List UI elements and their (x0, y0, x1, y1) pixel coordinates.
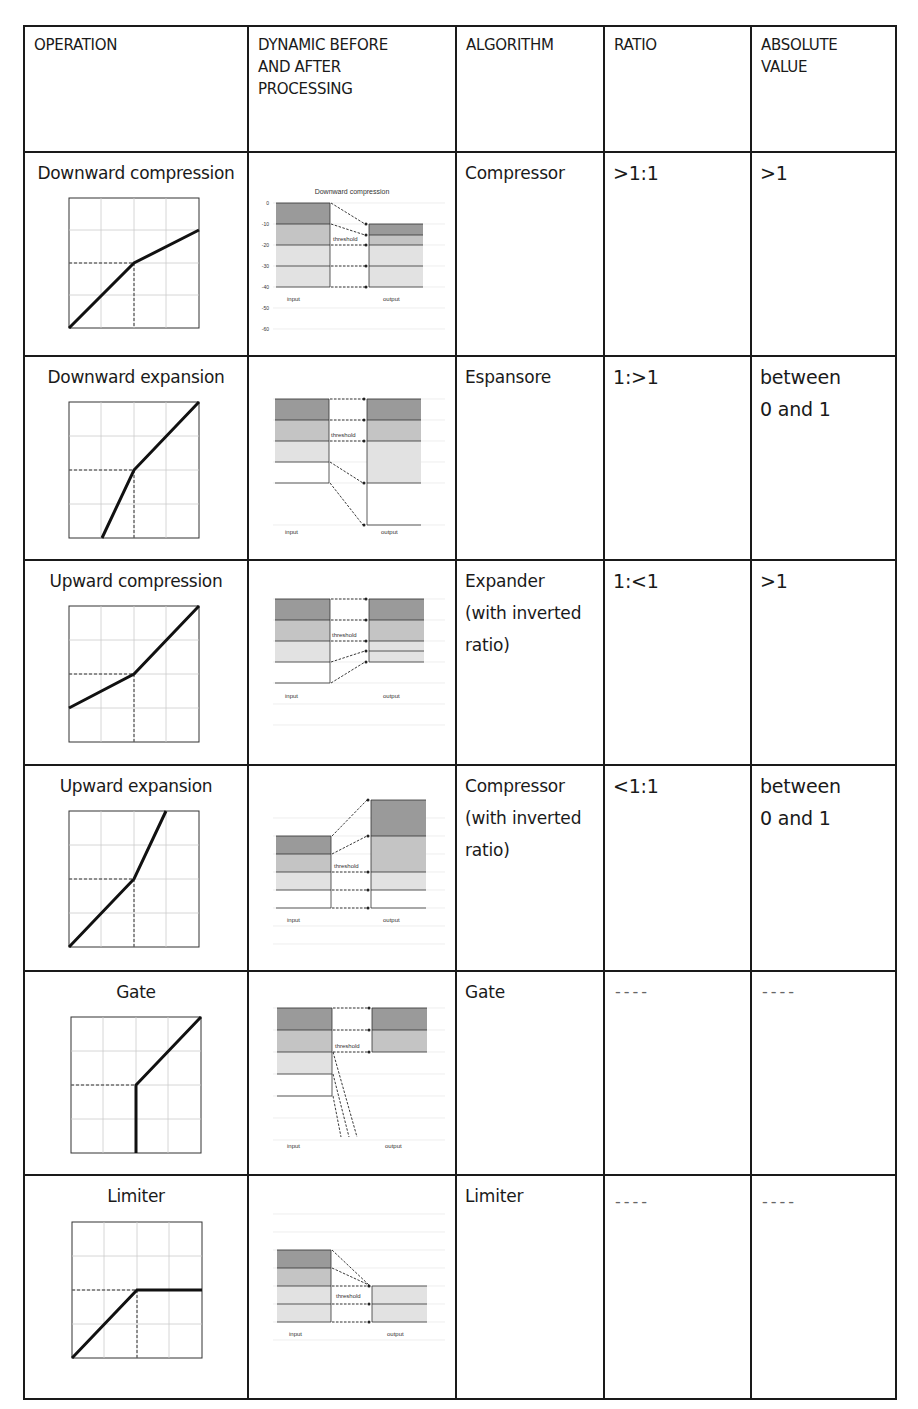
operation-cell: Upward expansion (25, 766, 249, 970)
algorithm-cell: Compressor (with inverted ratio) (457, 766, 605, 970)
transfer-curve-chart (68, 605, 200, 743)
algorithm-cell: Limiter (457, 1176, 605, 1398)
operation-cell: Downward expansion (25, 357, 249, 559)
svg-text:output: output (383, 296, 400, 302)
transfer-curve-chart (71, 1221, 203, 1359)
svg-text:input: input (287, 1143, 300, 1149)
svg-text:output: output (387, 1331, 404, 1337)
algorithm-cell: Compressor (457, 153, 605, 355)
dynamic-cell: Downward compression 0-10-20-30-40-50-60 (249, 153, 457, 355)
svg-text:output: output (383, 693, 400, 699)
svg-text:threshold: threshold (335, 1043, 360, 1049)
dynamic-cell: threshold input output (249, 766, 457, 970)
svg-text:threshold: threshold (336, 1293, 361, 1299)
svg-text:-20: -20 (262, 242, 269, 248)
absolute-value-cell: >1 (752, 561, 897, 764)
svg-text:Downward compression: Downward compression (315, 188, 390, 196)
dynamic-range-diagram: threshold input output (259, 591, 445, 741)
svg-text:-10: -10 (262, 221, 269, 227)
svg-text:threshold: threshold (333, 236, 358, 242)
ratio-cell: ---- (605, 972, 752, 1174)
svg-text:output: output (385, 1143, 402, 1149)
dynamic-cell: threshold input output (249, 357, 457, 559)
svg-text:input: input (285, 529, 298, 535)
absolute-value-cell: >1 (752, 153, 897, 355)
algorithm-cell: Expander (with inverted ratio) (457, 561, 605, 764)
operation-name: Upward compression (25, 571, 247, 591)
dynamic-range-diagram: threshold input output (259, 796, 445, 946)
ratio-cell: 1:>1 (605, 357, 752, 559)
transfer-curve-chart (70, 1016, 202, 1154)
operation-cell: Downward compression (25, 153, 249, 355)
operation-name: Limiter (25, 1186, 247, 1206)
table-row: Upward compression (25, 561, 895, 766)
operation-name: Upward expansion (25, 776, 247, 796)
absolute-value-cell: between 0 and 1 (752, 357, 897, 559)
dynamic-cell: threshold input output (249, 972, 457, 1174)
ratio-cell: ---- (605, 1176, 752, 1398)
svg-text:-50: -50 (262, 305, 269, 311)
operation-name: Gate (25, 982, 247, 1002)
dynamic-cell: threshold input output (249, 1176, 457, 1398)
operation-cell: Gate (25, 972, 249, 1174)
algorithm-cell: Espansore (457, 357, 605, 559)
svg-text:-40: -40 (262, 284, 269, 290)
svg-text:input: input (285, 693, 298, 699)
table-row: Downward expansion (25, 357, 895, 561)
header-ratio: RATIO (605, 27, 752, 151)
header-operation: OPERATION (25, 27, 249, 151)
absolute-value-cell: ---- (752, 972, 897, 1174)
svg-text:threshold: threshold (331, 432, 356, 438)
header-absolute-value: ABSOLUTE VALUE (752, 27, 897, 151)
header-algorithm: ALGORITHM (457, 27, 605, 151)
svg-text:0: 0 (266, 200, 269, 206)
operation-cell: Upward compression (25, 561, 249, 764)
transfer-curve-chart (68, 197, 200, 329)
svg-text:input: input (289, 1331, 302, 1337)
absolute-value-cell: ---- (752, 1176, 897, 1398)
svg-text:output: output (381, 529, 398, 535)
table-row: Limiter (25, 1176, 895, 1398)
svg-text:input: input (287, 296, 300, 302)
operation-name: Downward expansion (25, 367, 247, 387)
svg-text:threshold: threshold (334, 863, 359, 869)
dynamic-range-diagram: threshold input output (259, 387, 445, 537)
table-header-row: OPERATION DYNAMIC BEFORE AND AFTER PROCE… (25, 27, 895, 153)
svg-text:output: output (383, 917, 400, 923)
table-row: Downward compression Downward compressio… (25, 153, 895, 357)
algorithm-cell: Gate (457, 972, 605, 1174)
operation-name: Downward compression (25, 163, 247, 183)
svg-text:-60: -60 (262, 326, 269, 332)
operation-cell: Limiter (25, 1176, 249, 1398)
dynamic-range-diagram: Downward compression 0-10-20-30-40-50-60 (259, 185, 445, 345)
table-row: Gate (25, 972, 895, 1176)
dynamics-processing-table: OPERATION DYNAMIC BEFORE AND AFTER PROCE… (23, 25, 897, 1400)
svg-text:input: input (287, 917, 300, 923)
dynamic-range-diagram: threshold input output (259, 1206, 445, 1366)
transfer-curve-chart (68, 401, 200, 539)
transfer-curve-chart (68, 810, 200, 948)
svg-text:-30: -30 (262, 263, 269, 269)
svg-text:threshold: threshold (332, 632, 357, 638)
header-dynamic: DYNAMIC BEFORE AND AFTER PROCESSING (249, 27, 457, 151)
dynamic-range-diagram: threshold input output (259, 1002, 445, 1152)
absolute-value-cell: between 0 and 1 (752, 766, 897, 970)
ratio-cell: >1:1 (605, 153, 752, 355)
dynamic-cell: threshold input output (249, 561, 457, 764)
table-row: Upward expansion (25, 766, 895, 972)
ratio-cell: 1:<1 (605, 561, 752, 764)
ratio-cell: <1:1 (605, 766, 752, 970)
